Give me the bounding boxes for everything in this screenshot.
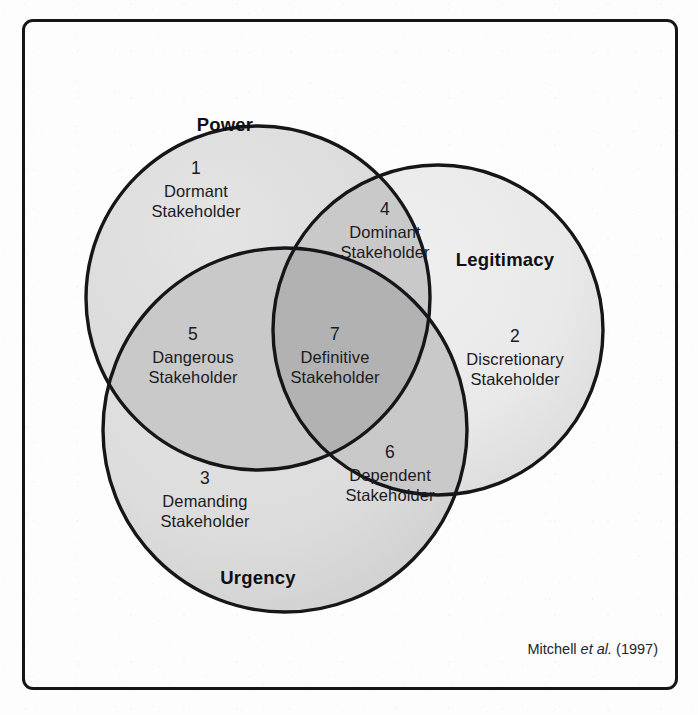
venn-diagram: Power Legitimacy Urgency 1 Dormant Stake…: [0, 0, 698, 715]
region-name-2-line1: Discretionary: [466, 349, 564, 369]
region-number-6: 6: [345, 442, 434, 464]
region-name-3-line2: Stakeholder: [160, 511, 249, 531]
region-number-1: 1: [151, 158, 240, 180]
region-number-4: 4: [340, 199, 429, 221]
set-title-urgency: Urgency: [220, 567, 295, 589]
figure-attribution: Mitchell et al. (1997): [527, 641, 658, 657]
region-name-4-line1: Dominant: [340, 222, 429, 242]
attribution-et-al: et al.: [581, 641, 612, 657]
region-number-3: 3: [160, 468, 249, 490]
region-name-1-line1: Dormant: [151, 181, 240, 201]
region-name-7-line1: Definitive: [290, 347, 379, 367]
region-name-2-line2: Stakeholder: [466, 369, 564, 389]
region-name-1-line2: Stakeholder: [151, 201, 240, 221]
region-number-2: 2: [466, 326, 564, 348]
set-title-power: Power: [197, 114, 254, 136]
region-label-dependent-stakeholder: 6 Dependent Stakeholder: [345, 442, 434, 506]
region-label-discretionary-stakeholder: 2 Discretionary Stakeholder: [466, 326, 564, 390]
region-name-4-line2: Stakeholder: [340, 242, 429, 262]
set-title-legitimacy: Legitimacy: [456, 249, 555, 271]
region-label-dangerous-stakeholder: 5 Dangerous Stakeholder: [148, 324, 237, 388]
attribution-prefix: Mitchell: [527, 641, 580, 657]
region-number-5: 5: [148, 324, 237, 346]
region-name-5-line2: Stakeholder: [148, 367, 237, 387]
region-label-dominant-stakeholder: 4 Dominant Stakeholder: [340, 199, 429, 263]
region-label-definitive-stakeholder: 7 Definitive Stakeholder: [290, 324, 379, 388]
region-name-3-line1: Demanding: [160, 491, 249, 511]
region-label-demanding-stakeholder: 3 Demanding Stakeholder: [160, 468, 249, 532]
attribution-year: (1997): [612, 641, 658, 657]
region-name-5-line1: Dangerous: [148, 347, 237, 367]
region-name-6-line2: Stakeholder: [345, 485, 434, 505]
figure-page: Power Legitimacy Urgency 1 Dormant Stake…: [0, 0, 698, 715]
region-name-6-line1: Dependent: [345, 465, 434, 485]
region-number-7: 7: [290, 324, 379, 346]
region-name-7-line2: Stakeholder: [290, 367, 379, 387]
region-label-dormant-stakeholder: 1 Dormant Stakeholder: [151, 158, 240, 222]
